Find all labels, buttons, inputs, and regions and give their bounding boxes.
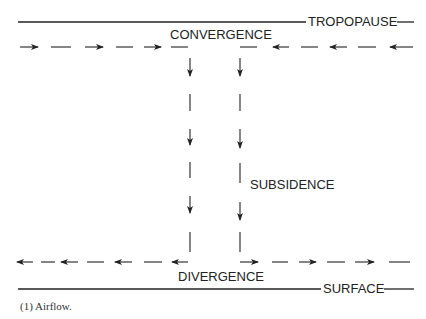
divergence-label: DIVERGENCE xyxy=(178,270,264,284)
figure-caption: (1) Airflow. xyxy=(20,300,72,312)
surface-label: SURFACE xyxy=(323,282,384,296)
airflow-diagram: TROPOPAUSE CONVERGENCE SUBSIDENCE DIVERG… xyxy=(0,0,426,319)
convergence-label: CONVERGENCE xyxy=(170,28,272,42)
subsidence-label: SUBSIDENCE xyxy=(250,178,335,192)
tropopause-label: TROPOPAUSE xyxy=(308,15,397,29)
